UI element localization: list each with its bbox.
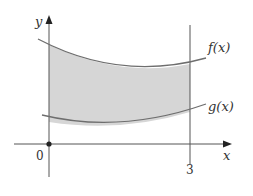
curve-g-label: g(x) xyxy=(208,99,234,114)
origin-label: 0 xyxy=(36,149,44,163)
origin-dot xyxy=(46,141,51,146)
y-axis-label: y xyxy=(34,14,43,29)
curve-f-label: f(x) xyxy=(207,40,230,55)
x-axis-arrow-icon xyxy=(223,141,232,148)
diagram-canvas: y x 0 3 f(x) g(x) xyxy=(0,0,253,196)
shaded-region xyxy=(49,45,190,126)
x-tick-label-3: 3 xyxy=(186,163,194,177)
x-axis-label: x xyxy=(223,148,231,163)
y-axis-arrow-icon xyxy=(46,15,53,24)
